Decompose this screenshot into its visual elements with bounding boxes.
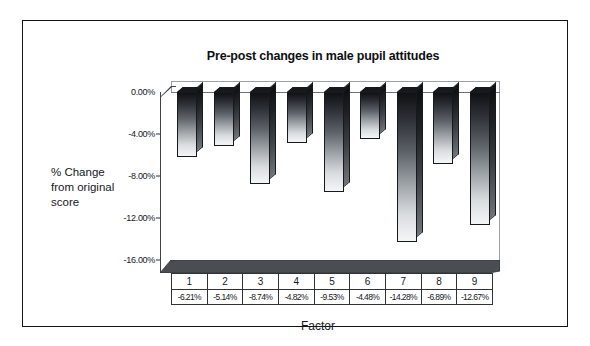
data-table-value-cell: -8.74% bbox=[243, 290, 279, 305]
bar-front-face bbox=[287, 92, 307, 143]
bar-side-face bbox=[344, 82, 350, 187]
bar-front-face bbox=[250, 92, 270, 184]
bar[interactable] bbox=[214, 92, 234, 146]
plot-left-wall bbox=[160, 92, 172, 273]
data-table-value-cell: -9.53% bbox=[314, 290, 350, 305]
bar[interactable] bbox=[360, 92, 380, 139]
data-table-category-cell: 6 bbox=[350, 274, 386, 290]
bar-side-face bbox=[417, 82, 423, 237]
x-axis-title: Factor bbox=[238, 319, 398, 333]
bar-side-face bbox=[197, 82, 203, 152]
y-axis-title-line-3: score bbox=[51, 195, 143, 210]
y-axis-tick-mark bbox=[156, 260, 160, 261]
bar-side-face bbox=[490, 82, 496, 220]
data-table-value-cell: -12.67% bbox=[457, 290, 493, 305]
bar[interactable] bbox=[250, 92, 270, 184]
data-table-category-cell: 7 bbox=[385, 274, 421, 290]
bar-front-face bbox=[214, 92, 234, 146]
y-axis-tick-label: -16.00% bbox=[124, 255, 155, 265]
bar[interactable] bbox=[470, 92, 490, 225]
y-axis-tick-mark bbox=[156, 176, 160, 177]
data-table-value-cell: -4.48% bbox=[350, 290, 386, 305]
y-axis-tick-label: -8.00% bbox=[128, 171, 155, 181]
bar[interactable] bbox=[433, 92, 453, 164]
bar-front-face bbox=[360, 92, 380, 139]
bar-front-face bbox=[324, 92, 344, 192]
data-table-category-cell: 1 bbox=[172, 274, 208, 290]
y-axis-title-line-2: from original bbox=[51, 180, 143, 195]
bar-front-face bbox=[433, 92, 453, 164]
y-axis-tick-mark bbox=[156, 218, 160, 219]
y-axis-tick-label: 0.00% bbox=[131, 87, 155, 97]
bar-front-face bbox=[470, 92, 490, 225]
bar-front-face bbox=[177, 92, 197, 157]
data-table-category-cell: 4 bbox=[278, 274, 314, 290]
data-table-value-cell: -14.28% bbox=[385, 290, 421, 305]
data-table-value-cell: -4.82% bbox=[278, 290, 314, 305]
data-table-value-cell: -6.89% bbox=[421, 290, 457, 305]
chart-title: Pre-post changes in male pupil attitudes bbox=[143, 49, 503, 63]
data-table-category-cell: 5 bbox=[314, 274, 350, 290]
chart-frame: Pre-post changes in male pupil attitudes… bbox=[22, 20, 568, 327]
data-table: 123456789 -6.21%-5.14%-8.74%-4.82%-9.53%… bbox=[171, 273, 493, 305]
plot-floor bbox=[160, 260, 500, 273]
data-table-value-cell: -6.21% bbox=[172, 290, 208, 305]
plot-area: 0.00%-4.00%-8.00%-12.00%-16.00% bbox=[160, 81, 500, 273]
data-table-category-cell: 2 bbox=[207, 274, 243, 290]
bar-side-face bbox=[270, 82, 276, 179]
data-table-category-row: 123456789 bbox=[172, 274, 493, 290]
y-axis-tick-label: -12.00% bbox=[124, 213, 155, 223]
data-table-category-cell: 3 bbox=[243, 274, 279, 290]
data-table-value-cell: -5.14% bbox=[207, 290, 243, 305]
y-axis-tick-label: -4.00% bbox=[128, 129, 155, 139]
data-table-category-cell: 9 bbox=[457, 274, 493, 290]
y-axis-tick-mark bbox=[156, 134, 160, 135]
plot-corner-bevel bbox=[160, 81, 176, 97]
bar-front-face bbox=[397, 92, 417, 242]
bar-side-face bbox=[453, 82, 459, 159]
bar[interactable] bbox=[287, 92, 307, 143]
data-table-value-row: -6.21%-5.14%-8.74%-4.82%-9.53%-4.48%-14.… bbox=[172, 290, 493, 305]
bar[interactable] bbox=[397, 92, 417, 242]
bar[interactable] bbox=[177, 92, 197, 157]
data-table-category-cell: 8 bbox=[421, 274, 457, 290]
bar[interactable] bbox=[324, 92, 344, 192]
